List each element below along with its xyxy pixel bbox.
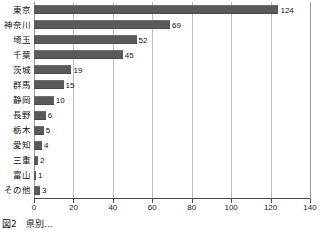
- bar-value-label: 19: [73, 65, 82, 74]
- tick-label-0: 0: [32, 203, 36, 213]
- tick-label-100: 100: [224, 203, 237, 213]
- tick-label-140: 140: [303, 203, 316, 213]
- y-label-東京: 東京: [13, 5, 31, 14]
- bar-rows: 124695245191510654213: [34, 2, 310, 198]
- bar-富山: [34, 171, 36, 180]
- tick-label-80: 80: [187, 203, 196, 213]
- bar-row: 6: [34, 111, 310, 120]
- y-label-埼玉: 埼玉: [13, 35, 31, 44]
- chart-plot-wrapper: 東京神奈川埼玉千葉茨城群馬静岡長野栃木愛知三重富山その他 12469524519…: [0, 0, 323, 214]
- y-label-三重: 三重: [13, 156, 31, 165]
- figure-caption: 図2 県別…: [2, 219, 53, 230]
- x-axis-tick-labels: 020406080100120140: [0, 203, 323, 215]
- y-label-長野: 長野: [13, 111, 31, 120]
- y-label-神奈川: 神奈川: [4, 20, 31, 29]
- bar-row: 19: [34, 65, 310, 74]
- y-label-千葉: 千葉: [13, 50, 31, 59]
- bar-row: 4: [34, 141, 310, 150]
- bar-愛知: [34, 141, 42, 150]
- y-label-静岡: 静岡: [13, 96, 31, 105]
- tick-label-120: 120: [264, 203, 277, 213]
- bar-value-label: 1: [38, 171, 42, 180]
- figure-bar-chart: 東京神奈川埼玉千葉茨城群馬静岡長野栃木愛知三重富山その他 12469524519…: [0, 0, 323, 230]
- gridline-140: [310, 2, 311, 198]
- y-label-愛知: 愛知: [13, 141, 31, 150]
- y-label-栃木: 栃木: [13, 126, 31, 135]
- bar-茨城: [34, 65, 71, 74]
- bar-栃木: [34, 126, 44, 135]
- bar-value-label: 3: [42, 186, 46, 195]
- bar-三重: [34, 156, 38, 165]
- bar-value-label: 124: [280, 5, 293, 14]
- bar-row: 124: [34, 5, 310, 14]
- bar-value-label: 69: [172, 20, 181, 29]
- bar-row: 15: [34, 80, 310, 89]
- bar-row: 69: [34, 20, 310, 29]
- bar-row: 45: [34, 50, 310, 59]
- bar-value-label: 6: [48, 111, 52, 120]
- bar-row: 52: [34, 35, 310, 44]
- bar-value-label: 15: [66, 80, 75, 89]
- bar-value-label: 52: [139, 35, 148, 44]
- bar-row: 1: [34, 171, 310, 180]
- bar-row: 5: [34, 126, 310, 135]
- bar-静岡: [34, 96, 54, 105]
- bar-value-label: 2: [40, 156, 44, 165]
- tick-label-40: 40: [108, 203, 117, 213]
- bar-row: 3: [34, 186, 310, 195]
- bar-value-label: 45: [125, 50, 134, 59]
- bar-value-label: 4: [44, 141, 48, 150]
- bar-value-label: 5: [46, 126, 50, 135]
- bar-row: 10: [34, 96, 310, 105]
- bar-東京: [34, 5, 278, 14]
- bar-row: 2: [34, 156, 310, 165]
- bar-埼玉: [34, 35, 137, 44]
- tick-label-60: 60: [148, 203, 157, 213]
- tick-label-20: 20: [69, 203, 78, 213]
- bar-value-label: 10: [56, 96, 65, 105]
- bar-神奈川: [34, 20, 170, 29]
- y-axis-category-labels: 東京神奈川埼玉千葉茨城群馬静岡長野栃木愛知三重富山その他: [0, 2, 34, 198]
- bar-千葉: [34, 50, 123, 59]
- bar-長野: [34, 111, 46, 120]
- plot-area: 124695245191510654213: [34, 2, 310, 198]
- y-label-その他: その他: [4, 186, 31, 195]
- y-label-群馬: 群馬: [13, 80, 31, 89]
- y-label-茨城: 茨城: [13, 65, 31, 74]
- y-label-富山: 富山: [13, 171, 31, 180]
- bar-群馬: [34, 80, 64, 89]
- bar-その他: [34, 186, 40, 195]
